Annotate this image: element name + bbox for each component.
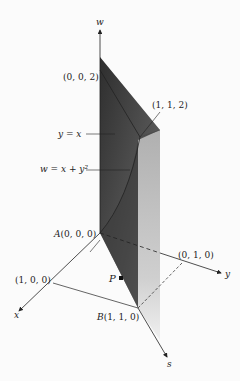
label-top-point: (0, 0, 2) xyxy=(63,72,99,82)
surface-light-face xyxy=(138,130,160,340)
point-p-marker xyxy=(119,276,123,280)
diagram-svg: w x y s (0, 0, 2) (1, 1, 2) y = x w = x … xyxy=(0,0,240,381)
label-w-surface: w = x + y² xyxy=(40,164,88,174)
x-axis xyxy=(19,233,100,311)
label-b: B(1, 1, 0) xyxy=(96,312,139,322)
x-axis-label: x xyxy=(14,310,19,320)
label-origin-coords: (0, 0, 0) xyxy=(61,229,97,239)
y-axis-label: y xyxy=(224,269,231,279)
label-origin: A(0, 0, 0) xyxy=(53,229,96,239)
w-axis-label: w xyxy=(96,17,104,27)
leader-origin xyxy=(90,240,100,252)
label-corner-point: (1, 1, 2) xyxy=(152,100,188,110)
label-y-eq-x: y = x xyxy=(57,129,81,139)
label-x-unit: (1, 0, 0) xyxy=(15,275,51,285)
diagram-canvas: w x y s (0, 0, 2) (1, 1, 2) y = x w = x … xyxy=(0,0,240,381)
label-p: P xyxy=(108,273,116,284)
surface xyxy=(100,57,160,340)
label-y-unit: (0, 1, 0) xyxy=(178,250,214,260)
label-b-coords: (1, 1, 0) xyxy=(104,312,140,322)
edge-x-to-b xyxy=(53,283,138,308)
s-axis-label: s xyxy=(167,359,172,369)
